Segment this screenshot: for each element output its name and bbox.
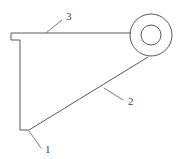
part-drawing-svg: 1 2 3 [0,0,186,159]
callout-1-label: 1 [45,143,51,155]
technical-drawing-canvas: 1 2 3 [0,0,186,159]
callout-2-label: 2 [128,95,134,107]
callout-3-label: 3 [66,10,72,22]
drawing-background [0,0,186,159]
